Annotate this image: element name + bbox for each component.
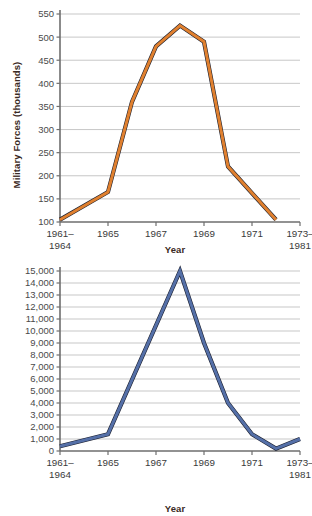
military-forces-plot: 100150200250300350400450500550 1961–1964… [0, 0, 312, 258]
y-axis-title: Military Forces (thousands) [11, 62, 22, 189]
battle-deaths-plot: 01,0002,0003,0004,0005,0006,0007,0008,00… [0, 258, 312, 516]
ytick-labels-top: 100150200250300350400450500550 [38, 8, 54, 227]
x-tick-label: 1981 [289, 240, 311, 251]
y-tick-label: 150 [38, 193, 54, 204]
y-tick-label: 250 [38, 147, 54, 158]
x-tick-label: 1967 [145, 457, 167, 468]
x-axis-title: Year [165, 244, 186, 255]
y-tick-label: 8,000 [30, 349, 54, 360]
x-tick-label: 1961– [46, 457, 74, 468]
y-tick-label: 4,000 [30, 397, 54, 408]
y-tick-label: 7,000 [30, 361, 54, 372]
chart-battle-deaths: 01,0002,0003,0004,0005,0006,0007,0008,00… [0, 258, 312, 516]
y-tick-label: 200 [38, 170, 54, 181]
x-tick-label: 1981 [289, 469, 311, 480]
y-tick-label: 400 [38, 78, 54, 89]
y-tick-label: 11,000 [26, 313, 54, 324]
series-line [60, 271, 300, 449]
x-tick-label: 1965 [97, 228, 119, 239]
x-tick-label: 1961– [46, 228, 74, 239]
ytick-labels-bottom: 01,0002,0003,0004,0005,0006,0007,0008,00… [25, 265, 54, 456]
series-line [60, 26, 276, 220]
axes-top [60, 10, 300, 222]
data-series-military-forces [60, 26, 276, 220]
series-outline [60, 271, 300, 449]
y-tick-label: 14,000 [25, 277, 54, 288]
y-tick-label: 1,000 [30, 433, 54, 444]
x-tick-label: 1971 [241, 228, 263, 239]
y-tick-label: 13,000 [25, 289, 54, 300]
x-tick-label: 1965 [97, 457, 119, 468]
y-tick-label: 550 [38, 8, 54, 19]
gridlines-top [60, 14, 300, 199]
xtick-labels-bottom: 1961–196419651967196919711973–1981 [46, 457, 312, 480]
x-tick-label: 1973– [286, 228, 312, 239]
y-tick-label: 300 [38, 124, 54, 135]
y-tick-label: 15,000 [25, 265, 54, 276]
y-tick-label: 450 [38, 55, 54, 66]
x-tick-label: 1967 [145, 228, 167, 239]
y-tick-label: 100 [38, 216, 54, 227]
y-tick-label: 350 [38, 101, 54, 112]
y-tick-label: 2,000 [30, 421, 54, 432]
x-tick-label: 1973– [286, 457, 312, 468]
y-tick-label: 500 [38, 32, 54, 43]
y-tick-label: 9,000 [30, 337, 54, 348]
x-tick-label: 1964 [49, 469, 71, 480]
gridlines-bottom [60, 271, 300, 439]
y-tick-label: 3,000 [30, 409, 54, 420]
data-series-battle-deaths [60, 271, 300, 449]
y-tick-label: 6,000 [30, 373, 54, 384]
y-tick-label: 5,000 [30, 385, 54, 396]
x-axis-title: Year [165, 503, 186, 514]
x-tick-label: 1969 [193, 457, 215, 468]
x-tick-label: 1969 [193, 228, 215, 239]
y-tick-label: 10,000 [25, 325, 54, 336]
x-tick-label: 1971 [241, 457, 263, 468]
y-tick-label: 0 [49, 445, 54, 456]
series-outline [60, 26, 276, 220]
chart-military-forces: 100150200250300350400450500550 1961–1964… [0, 0, 312, 258]
y-tick-label: 12,000 [25, 301, 54, 312]
x-tick-label: 1964 [49, 240, 71, 251]
tickmarks-top [57, 14, 301, 226]
